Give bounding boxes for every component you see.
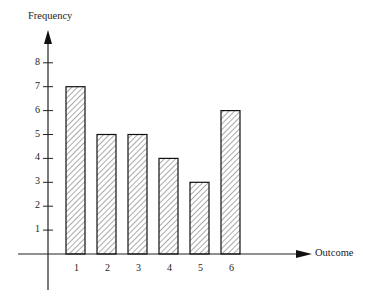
x-tick-label: 4 xyxy=(160,262,180,273)
x-tick-label: 3 xyxy=(129,262,149,273)
chart-canvas xyxy=(0,0,366,303)
bars xyxy=(66,87,240,254)
x-axis-arrow-icon xyxy=(296,250,312,258)
y-tick-label: 4 xyxy=(28,151,40,162)
y-tick-label: 6 xyxy=(28,104,40,115)
x-tick-label: 6 xyxy=(222,262,242,273)
bar xyxy=(97,135,116,255)
y-tick-label: 7 xyxy=(28,80,40,91)
y-tick-label: 3 xyxy=(28,175,40,186)
x-tick-label: 1 xyxy=(67,262,87,273)
y-tick-label: 5 xyxy=(28,128,40,139)
bar xyxy=(221,111,240,254)
bar xyxy=(128,135,147,255)
bar xyxy=(66,87,85,254)
y-axis-arrow-icon xyxy=(44,30,52,44)
x-axis-label: Outcome xyxy=(315,247,354,258)
y-axis-label: Frequency xyxy=(28,10,72,21)
y-tick-label: 2 xyxy=(28,199,40,210)
x-tick-label: 5 xyxy=(191,262,211,273)
y-tick-label: 1 xyxy=(28,223,40,234)
bar xyxy=(190,182,209,254)
bar xyxy=(159,158,178,254)
y-tick-label: 8 xyxy=(28,56,40,67)
x-tick-label: 2 xyxy=(98,262,118,273)
